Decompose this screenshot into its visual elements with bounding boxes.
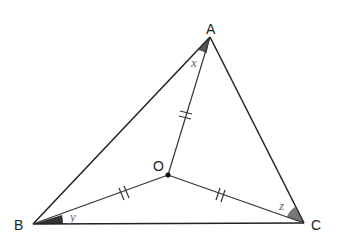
angle-label-y: y — [68, 209, 76, 224]
segment-oa — [168, 37, 210, 175]
point-o — [166, 173, 171, 178]
tick-mark-oa — [179, 111, 192, 119]
tick-mark-oc — [216, 188, 225, 202]
angle-label-z: z — [278, 198, 284, 213]
label-a: A — [206, 21, 216, 37]
label-o: O — [153, 158, 164, 174]
label-c: C — [311, 217, 321, 233]
segment-ob — [33, 175, 168, 224]
triangle-diagram: A B C O x y z — [0, 0, 339, 249]
angle-label-x: x — [190, 55, 197, 70]
side-ab — [33, 37, 210, 224]
label-b: B — [14, 217, 23, 233]
tick-mark-ob — [119, 186, 129, 200]
